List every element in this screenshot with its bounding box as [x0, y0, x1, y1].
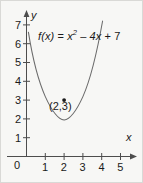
x-axis-arrow — [130, 154, 137, 160]
y-tick-label-5: 5 — [15, 57, 21, 68]
x-tick-label-5: 5 — [117, 162, 123, 173]
y-tick-label-2: 2 — [15, 114, 21, 125]
equation-minus: – — [80, 30, 86, 42]
vertex-label: (2,3) — [49, 100, 72, 112]
equation-fn: f(x) — [38, 30, 54, 42]
equation-plus: + — [105, 30, 112, 42]
origin-label: 0 — [14, 160, 20, 171]
equation-term3: 7 — [114, 30, 120, 42]
x-tick-label-1: 1 — [42, 162, 48, 173]
x-axis-name: x — [126, 132, 132, 143]
y-tick-label-4: 4 — [15, 76, 21, 87]
parabola-figure: f(x) = x2 – 4x + 7 (2,3) y x 0 1 2 3 4 5… — [0, 0, 143, 183]
y-tick-label-6: 6 — [15, 39, 21, 50]
y-tick-label-7: 7 — [15, 20, 21, 31]
equation-term2: 4x — [90, 30, 102, 42]
y-axis-arrow — [24, 10, 30, 17]
equation-equals: = — [57, 30, 64, 42]
x-tick-label-3: 3 — [80, 162, 86, 173]
y-tick-label-1: 1 — [15, 133, 21, 144]
x-tick-label-4: 4 — [98, 162, 104, 173]
y-tick-label-3: 3 — [15, 95, 21, 106]
equation-term1-exponent: 2 — [73, 28, 77, 37]
equation-annotation: f(x) = x2 – 4x + 7 — [38, 28, 120, 42]
x-tick-label-2: 2 — [61, 162, 67, 173]
y-axis-name: y — [31, 10, 37, 21]
